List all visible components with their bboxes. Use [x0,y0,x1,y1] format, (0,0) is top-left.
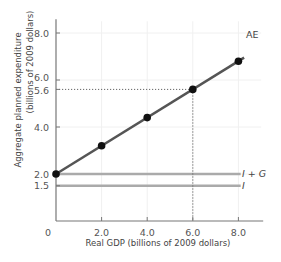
y-tick-label: 2.0 [34,169,49,180]
y-tick-label: 6.0 [34,72,49,83]
y-axis-title-line2: (billions of 2009 dollars) [25,11,35,114]
x-axis-title: Real GDP (billions of 2009 dollars) [86,238,231,248]
x-tick-label: 6.0 [185,227,200,238]
axes [56,19,263,221]
tick-labels: 02.04.06.08.01.52.04.05.66.08.0 [34,28,246,239]
ae-point [98,142,106,150]
ae-point [189,86,197,94]
dotted-guides [56,89,193,221]
ae-series [52,57,244,177]
ae-point [235,57,243,65]
horizontal-series [56,174,241,186]
y-tick-label: 5.6 [34,85,49,96]
y-tick-label: 4.0 [34,122,49,133]
y-tick-label: 1.5 [34,180,49,191]
x-tick-label: 8.0 [231,227,246,238]
x-tick-label: 0 [45,227,51,238]
y-tick-label: 8.0 [34,28,49,39]
ae-label: AE [246,29,259,40]
chart-canvas: 02.04.06.08.01.52.04.05.66.08.0 AE I + G… [0,0,281,262]
ae-point [143,114,151,122]
i-plus-g-label: I + G [242,168,266,179]
grid-lines [56,21,261,221]
x-tick-label: 2.0 [94,227,109,238]
y-axis-title-line1: Aggregate planned expenditure [13,32,23,167]
i-label: I [242,180,245,191]
ae-point [52,170,60,178]
x-tick-label: 4.0 [140,227,155,238]
